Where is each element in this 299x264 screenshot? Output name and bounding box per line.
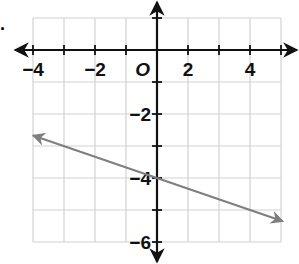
coordinate-plane: −4−224−2−4−6O — [0, 0, 299, 264]
origin-label: O — [135, 59, 150, 80]
x-tick-label: −2 — [84, 59, 106, 80]
y-tick-label: −2 — [129, 104, 151, 125]
x-tick-label: 2 — [183, 59, 194, 80]
axes — [15, 2, 297, 262]
y-tick-label: −6 — [129, 232, 151, 253]
tick-labels: −4−224−2−4−6O — [22, 59, 256, 253]
x-tick-label: −4 — [22, 59, 44, 80]
x-tick-label: 4 — [245, 59, 256, 80]
